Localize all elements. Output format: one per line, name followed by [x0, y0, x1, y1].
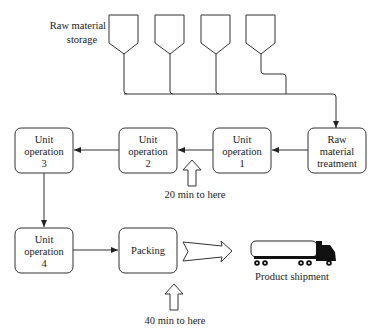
svg-text:Unit: Unit — [233, 134, 252, 145]
svg-text:Unit: Unit — [35, 134, 54, 145]
node-unit-operation-1: Unit operation 1 — [213, 128, 271, 173]
svg-text:Unit: Unit — [139, 134, 158, 145]
hopper-4 — [246, 15, 275, 54]
svg-text:operation: operation — [222, 146, 262, 157]
svg-text:operation: operation — [128, 146, 168, 157]
svg-text:operation: operation — [24, 146, 64, 157]
tanker-truck-icon — [251, 241, 336, 266]
svg-text:4: 4 — [41, 258, 47, 269]
svg-text:Raw: Raw — [327, 134, 347, 145]
feed-pipes — [124, 54, 336, 128]
svg-text:Unit: Unit — [35, 234, 54, 245]
hopper-3 — [201, 15, 230, 54]
node-unit-operation-3: Unit operation 3 — [15, 128, 73, 173]
up-arrow-icon — [183, 160, 201, 186]
up-arrow-icon — [165, 284, 183, 310]
storage-label: Raw material storage — [50, 20, 106, 45]
svg-text:operation: operation — [24, 246, 64, 257]
svg-text:2: 2 — [145, 158, 150, 169]
svg-text:treatment: treatment — [317, 158, 357, 169]
node-raw-material-treatment: Raw material treatment — [308, 128, 366, 173]
svg-text:Packing: Packing — [131, 245, 166, 256]
svg-text:1: 1 — [239, 158, 244, 169]
marker-20-min-label: 20 min to here — [165, 189, 226, 200]
hopper-2 — [155, 15, 184, 54]
hopper-1 — [109, 15, 138, 54]
svg-text:storage: storage — [67, 34, 98, 45]
marker-40-min-label: 40 min to here — [145, 315, 206, 326]
svg-text:3: 3 — [41, 158, 46, 169]
node-unit-operation-4: Unit operation 4 — [15, 228, 73, 273]
process-flow-diagram: Raw material storage Raw material treatm… — [0, 0, 376, 332]
svg-text:Raw material: Raw material — [50, 20, 106, 31]
shipment-arrow-icon — [183, 241, 232, 262]
product-shipment-label: Product shipment — [255, 271, 329, 282]
node-packing: Packing — [119, 228, 177, 273]
node-unit-operation-2: Unit operation 2 — [119, 128, 177, 173]
svg-text:material: material — [320, 146, 354, 157]
